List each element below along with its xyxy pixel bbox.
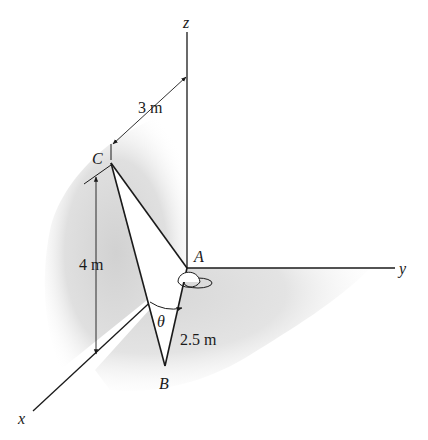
z-axis-label: z: [182, 14, 190, 31]
theta-label: θ: [157, 313, 165, 330]
point-A-label: A: [193, 248, 204, 265]
dim-4m-label: 4 m: [79, 256, 104, 273]
statics-diagram: z y x A B C 3 m 4 m 2.5 m θ: [0, 0, 428, 440]
dim-2.5m-label: 2.5 m: [180, 331, 217, 348]
point-B-label: B: [159, 375, 169, 392]
dim-3m-label: 3 m: [138, 99, 163, 116]
point-C-label: C: [92, 150, 103, 167]
y-axis-label: y: [397, 260, 407, 278]
x-axis-label: x: [17, 410, 25, 427]
